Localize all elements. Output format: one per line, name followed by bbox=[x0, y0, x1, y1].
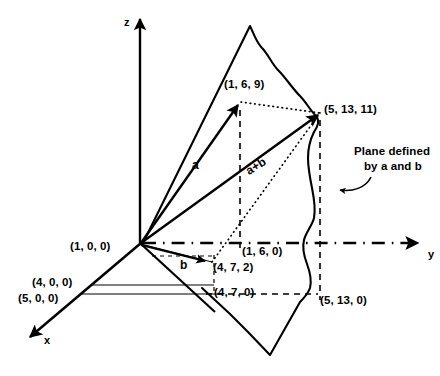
point-label-sum-projection: (5, 13, 0) bbox=[320, 294, 367, 308]
point-label-sum-tip: (5, 13, 11) bbox=[324, 103, 377, 117]
vector-a bbox=[141, 105, 238, 243]
plane-note-line2: by a and b bbox=[364, 159, 422, 173]
vector-diagram-canvas bbox=[0, 0, 440, 376]
point-label-x-4: (4, 0, 0) bbox=[32, 276, 73, 290]
plane-note-line1: Plane defined bbox=[354, 144, 430, 158]
plane-callout-arrow bbox=[340, 177, 371, 190]
y-axis-label: y bbox=[428, 248, 434, 261]
plane-outline bbox=[143, 26, 318, 355]
vector-a-label: a bbox=[192, 158, 199, 172]
point-label-b-tip: (4, 7, 2) bbox=[213, 261, 254, 275]
vector-diagram-figure: z y x a a+b b (1, 6, 9) (5, 13, 11) (1, … bbox=[0, 0, 440, 376]
point-label-a-tip: (1, 6, 9) bbox=[224, 78, 265, 92]
x-axis bbox=[30, 243, 141, 337]
vector-a-plus-b bbox=[141, 115, 318, 243]
z-axis-label: z bbox=[124, 16, 130, 29]
point-label-x-1: (1, 0, 0) bbox=[70, 240, 111, 254]
x-axis-label: x bbox=[44, 334, 50, 347]
point-label-b-projection: (4, 7, 0) bbox=[214, 286, 255, 300]
vector-b-label: b bbox=[180, 258, 187, 272]
point-label-x-5: (5, 0, 0) bbox=[18, 292, 59, 306]
point-label-a-projection: (1, 6, 0) bbox=[242, 245, 283, 259]
